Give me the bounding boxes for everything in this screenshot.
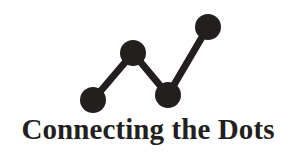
chart-node-dot bbox=[80, 87, 106, 113]
connecting-dots-icon bbox=[0, 0, 296, 115]
chart-node-dot bbox=[120, 40, 146, 66]
logo-card: Connecting the Dots bbox=[0, 0, 296, 157]
chart-node-dot bbox=[155, 82, 181, 108]
chart-node-dot bbox=[195, 14, 221, 40]
wordmark-text: Connecting the Dots bbox=[0, 111, 296, 147]
logo-mark bbox=[0, 0, 296, 115]
